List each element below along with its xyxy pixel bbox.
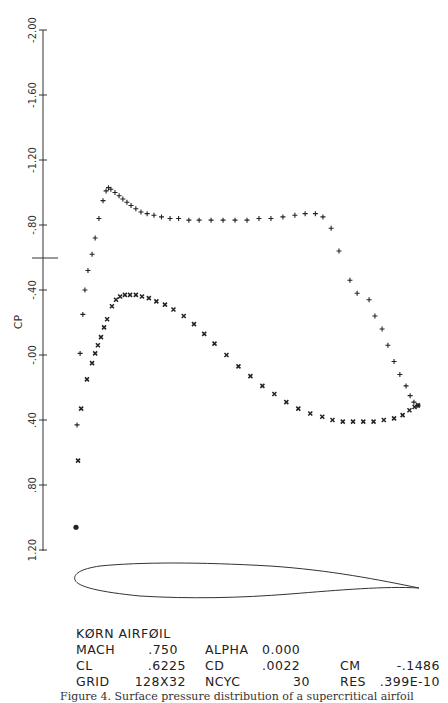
data-point: [82, 288, 87, 293]
data-point: [260, 384, 264, 388]
y-tick-label: -2.00: [27, 17, 38, 43]
data-point: [133, 206, 138, 211]
data-point: [268, 216, 273, 221]
data-point: [197, 218, 202, 223]
upper-surface-series: [75, 185, 421, 427]
y-tick-label: -.80: [27, 215, 38, 235]
lower-surface-series: [76, 293, 420, 463]
data-point: [112, 190, 117, 195]
data-point: [182, 314, 186, 318]
data-point: [355, 291, 360, 296]
data-point: [380, 327, 385, 332]
y-tick-label: .80: [27, 477, 38, 493]
data-point: [347, 278, 352, 283]
data-point: [168, 216, 173, 221]
info-alpha-label: ALPHA: [205, 642, 249, 657]
y-tick-label: -1.60: [27, 82, 38, 108]
info-res-label: RES: [340, 674, 366, 689]
data-point: [102, 325, 106, 329]
data-point: [213, 342, 217, 346]
data-point: [124, 200, 129, 205]
info-cm-value: -.1486: [370, 658, 440, 673]
axis-ticks: -2.00-1.60-1.20-.80-.40-.00.40.801.20: [27, 17, 47, 561]
data-point: [202, 332, 206, 336]
y-tick-label: -1.20: [27, 147, 38, 173]
data-point: [114, 298, 118, 302]
info-cl-value: .6225: [130, 658, 186, 673]
data-point: [101, 198, 106, 203]
data-point: [320, 214, 325, 219]
info-title: KØRN AIRFØIL: [76, 626, 171, 641]
data-point: [96, 343, 100, 347]
data-point: [110, 304, 114, 308]
data-point: [233, 218, 238, 223]
data-point: [134, 293, 138, 297]
info-cd-label: CD: [205, 658, 224, 673]
airfoil-outline: [75, 563, 419, 598]
data-point: [75, 422, 80, 427]
y-axis-label: CP: [12, 314, 25, 329]
data-point: [105, 317, 109, 321]
info-cd-value: .0022: [262, 658, 300, 673]
data-point: [79, 407, 83, 411]
data-point: [73, 525, 78, 530]
data-point: [372, 420, 376, 424]
y-tick-label: .40: [27, 412, 38, 428]
y-tick-label: -.00: [27, 345, 38, 365]
y-tick-label: -.40: [27, 280, 38, 300]
data-point: [76, 459, 80, 463]
data-point: [118, 295, 122, 299]
figure-caption: Figure 4. Surface pressure distribution …: [60, 690, 414, 703]
data-point: [404, 383, 409, 388]
info-ncyc-value: 30: [262, 674, 310, 689]
data-point: [308, 412, 312, 416]
data-point: [313, 211, 318, 216]
data-point: [186, 218, 191, 223]
data-point: [85, 268, 90, 273]
info-alpha-value: 0.000: [262, 642, 300, 657]
data-point: [221, 218, 226, 223]
info-mach-label: MACH: [76, 642, 115, 657]
stagnation-point: [73, 525, 78, 530]
data-point: [392, 416, 396, 420]
data-point: [408, 393, 413, 398]
data-point: [128, 293, 132, 297]
data-point: [145, 211, 150, 216]
data-point: [129, 203, 134, 208]
data-point: [256, 216, 261, 221]
data-point: [85, 377, 89, 381]
data-point: [392, 359, 397, 364]
data-point: [99, 335, 103, 339]
data-point: [80, 312, 85, 317]
data-point: [159, 214, 164, 219]
data-point: [163, 303, 167, 307]
data-point: [90, 361, 94, 365]
data-point: [147, 296, 151, 300]
data-point: [151, 213, 156, 218]
data-point: [171, 308, 175, 312]
info-cl-label: CL: [76, 658, 93, 673]
data-point: [224, 353, 228, 357]
data-point: [138, 210, 143, 215]
data-point: [397, 372, 402, 377]
data-point: [385, 343, 390, 348]
data-point: [401, 413, 405, 417]
data-point: [140, 295, 144, 299]
data-point: [331, 418, 335, 422]
data-point: [93, 351, 97, 355]
data-point: [154, 299, 158, 303]
data-point: [296, 407, 300, 411]
data-point: [245, 218, 250, 223]
data-point: [120, 197, 125, 202]
data-point: [320, 415, 324, 419]
info-cm-label: CM: [340, 658, 361, 673]
data-point: [104, 188, 109, 193]
y-tick-label: 1.20: [27, 539, 38, 561]
info-grid-label: GRID: [76, 674, 110, 689]
data-point: [382, 418, 386, 422]
data-point: [280, 214, 285, 219]
data-point: [248, 374, 252, 378]
data-point: [372, 314, 377, 319]
info-grid-value: 128X32: [120, 674, 186, 689]
